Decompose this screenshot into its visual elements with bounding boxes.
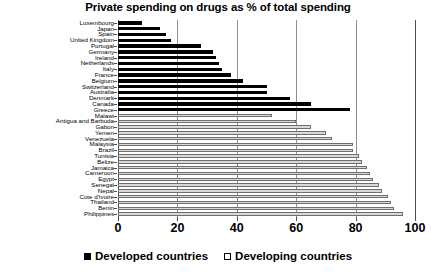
y-tick-mark: [114, 133, 117, 134]
y-tick-mark: [114, 202, 117, 203]
bar-philippines: [118, 212, 403, 215]
bar-row: [118, 79, 415, 82]
bar-netherlands: [118, 62, 219, 65]
bar-italy: [118, 68, 222, 71]
y-tick-mark: [114, 75, 117, 76]
bar-row: [118, 85, 415, 88]
y-tick-mark: [114, 52, 117, 53]
bar-row: [118, 91, 415, 94]
y-tick-mark: [114, 173, 117, 174]
y-tick-mark: [114, 104, 117, 105]
y-tick-mark: [114, 197, 117, 198]
bar-ireland: [118, 56, 216, 59]
bar-row: [118, 149, 415, 152]
y-tick-mark: [114, 63, 117, 64]
y-tick-mark: [114, 144, 117, 145]
y-tick-mark: [114, 208, 117, 209]
bar-row: [118, 120, 415, 123]
y-tick-mark: [114, 92, 117, 93]
bar-row: [118, 172, 415, 175]
bar-cote-d-ivoire: [118, 195, 388, 198]
bar-row: [118, 160, 415, 163]
bar-row: [118, 114, 415, 117]
category-label: Philippines: [84, 211, 114, 217]
bar-row: [118, 21, 415, 24]
y-tick-mark: [114, 139, 117, 140]
bar-belize: [118, 160, 362, 163]
y-tick-mark: [114, 116, 117, 117]
y-tick-mark: [114, 29, 117, 30]
bar-thailand: [118, 201, 391, 204]
bar-australia: [118, 91, 267, 94]
bar-row: [118, 50, 415, 53]
bar-row: [118, 201, 415, 204]
legend-open-square-icon: [224, 253, 231, 260]
bar-yemen: [118, 131, 326, 134]
bar-belgium: [118, 79, 243, 82]
legend-item-developed: Developed countries: [84, 250, 208, 262]
bar-venezuela: [118, 137, 332, 140]
bar-japan: [118, 27, 160, 30]
bar-jamaica: [118, 166, 367, 169]
bar-row: [118, 166, 415, 169]
y-tick-mark: [114, 98, 117, 99]
bar-spain: [118, 33, 166, 36]
bar-row: [118, 97, 415, 100]
bar-portugal: [118, 44, 201, 47]
y-tick-mark: [114, 46, 117, 47]
bar-greece: [118, 108, 350, 111]
y-tick-mark: [114, 185, 117, 186]
bar-cameroon: [118, 172, 370, 175]
chart-title: Private spending on drugs as % of total …: [0, 1, 436, 13]
bar-denmark: [118, 97, 290, 100]
y-tick-mark: [114, 214, 117, 215]
bar-malaysia: [118, 143, 353, 146]
bar-row: [118, 73, 415, 76]
bar-row: [118, 137, 415, 140]
bar-france: [118, 73, 231, 76]
bar-luxembourg: [118, 21, 142, 24]
bar-row: [118, 102, 415, 105]
bar-row: [118, 183, 415, 186]
legend-filled-square-icon: [84, 253, 91, 260]
y-tick-mark: [114, 191, 117, 192]
bar-nepal: [118, 189, 382, 192]
bar-row: [118, 62, 415, 65]
bar-switzerland: [118, 85, 267, 88]
bar-row: [118, 178, 415, 181]
bar-row: [118, 189, 415, 192]
bar-antigua-and-barbuda: [118, 120, 296, 123]
bar-egypt: [118, 178, 373, 181]
bar-row: [118, 27, 415, 30]
y-tick-mark: [114, 179, 117, 180]
y-tick-mark: [114, 162, 117, 163]
y-tick-mark: [114, 156, 117, 157]
bar-benin: [118, 207, 394, 210]
y-tick-mark: [114, 23, 117, 24]
bar-malawi: [118, 114, 272, 117]
y-tick-mark: [114, 34, 117, 35]
legend-item-developing: Developing countries: [224, 250, 352, 262]
y-tick-mark: [114, 121, 117, 122]
y-tick-mark: [114, 40, 117, 41]
bar-row: [118, 33, 415, 36]
y-tick-mark: [114, 127, 117, 128]
bar-row: [118, 108, 415, 111]
y-axis-category-labels: LuxembourgJapanSpainUnited KingdomPortug…: [0, 20, 116, 217]
bar-row: [118, 143, 415, 146]
bar-row: [118, 39, 415, 42]
legend-label: Developed countries: [95, 250, 208, 262]
bar-row: [118, 195, 415, 198]
bar-row: [118, 131, 415, 134]
x-tick-label-60: 60: [289, 221, 303, 235]
x-tick-label-0: 0: [115, 221, 122, 235]
bar-gabon: [118, 125, 311, 128]
chart-legend: Developed countriesDeveloping countries: [0, 250, 436, 262]
bar-series-container: [118, 20, 415, 217]
y-tick-mark: [114, 87, 117, 88]
x-axis: 020406080100: [118, 217, 415, 237]
bar-germany: [118, 50, 213, 53]
gridline-100: [415, 20, 416, 217]
x-tick-label-40: 40: [230, 221, 244, 235]
bar-row: [118, 154, 415, 157]
